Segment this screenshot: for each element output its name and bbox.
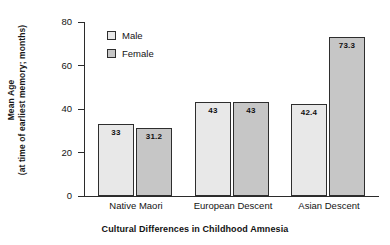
bar-asian-female: 73.3 xyxy=(329,37,365,196)
x-axis-line xyxy=(84,196,379,197)
bar-european-female: 43 xyxy=(233,102,269,196)
x-category-label-european-descent: European Descent xyxy=(181,200,285,211)
bar-value-label: 31.2 xyxy=(137,132,171,141)
x-category-label-asian-descent: Asian Descent xyxy=(277,200,381,211)
bar-value-label: 42.4 xyxy=(292,108,326,117)
bar-maori-male: 33 xyxy=(98,124,134,196)
legend-swatch-male-icon xyxy=(107,31,116,40)
bar-european-male: 43 xyxy=(195,102,231,196)
legend-item-male: Male xyxy=(107,28,154,43)
legend-label-male: Male xyxy=(122,30,143,41)
bar-maori-female: 31.2 xyxy=(136,128,172,196)
y-tick-label-40: 40 xyxy=(46,104,72,114)
y-axis-title: Mean Age (at time of earliest memory; mo… xyxy=(0,0,34,200)
y-axis-title-line1: Mean Age xyxy=(6,25,17,176)
y-tick-label-0: 0 xyxy=(46,191,72,201)
legend: Male Female xyxy=(107,28,154,64)
x-axis-title: Cultural Differences in Childhood Amnesi… xyxy=(0,224,390,234)
legend-swatch-female-icon xyxy=(107,49,116,58)
y-axis-title-line2: (at time of earliest memory; months) xyxy=(17,25,28,176)
y-tick-label-80: 80 xyxy=(46,17,72,27)
bar-asian-male: 42.4 xyxy=(291,104,327,196)
bar-value-label: 73.3 xyxy=(330,41,364,50)
bar-value-label: 43 xyxy=(234,106,268,115)
bar-chart-figure: Mean Age (at time of earliest memory; mo… xyxy=(0,0,390,245)
x-category-label-native-maori: Native Maori xyxy=(84,200,188,211)
y-tick-label-60: 60 xyxy=(46,61,72,71)
legend-label-female: Female xyxy=(122,48,154,59)
y-tick-label-20: 20 xyxy=(46,148,72,158)
bar-value-label: 33 xyxy=(99,128,133,137)
legend-item-female: Female xyxy=(107,46,154,61)
bar-value-label: 43 xyxy=(196,106,230,115)
